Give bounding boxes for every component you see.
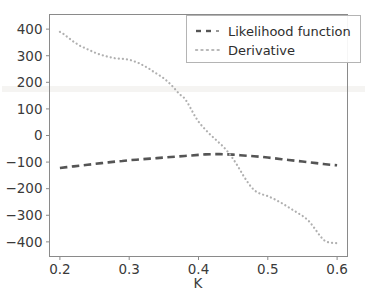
y-tick-label: 300 [17, 48, 43, 64]
scan-artifact-band [2, 86, 365, 92]
y-tick-label: −200 [5, 180, 42, 196]
figure-container: 4003002001000−100−200−300−400 0.20.30.40… [0, 0, 367, 304]
y-tick-label: 400 [17, 21, 43, 37]
chart-canvas: 4003002001000−100−200−300−400 0.20.30.40… [0, 0, 367, 304]
x-tick-label: 0.2 [49, 261, 70, 277]
y-tick-label: −100 [5, 154, 42, 170]
y-tick-label: 200 [17, 74, 43, 90]
x-tick-label: 0.5 [257, 261, 278, 277]
y-tick-label: −300 [5, 207, 42, 223]
y-tick-label: 0 [34, 127, 43, 143]
y-tick-label: 100 [17, 101, 43, 117]
x-tick-label: 0.3 [118, 261, 139, 277]
chart-legend[interactable]: Likelihood function Derivative [187, 16, 361, 63]
legend-label-derivative: Derivative [228, 43, 295, 58]
x-axis-label: K [194, 275, 204, 291]
y-tick-label: −400 [5, 234, 42, 250]
legend-label-likelihood: Likelihood function [228, 24, 351, 39]
x-tick-label: 0.6 [326, 261, 347, 277]
